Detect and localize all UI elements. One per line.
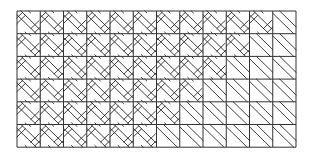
- band-edge: [133, 128, 152, 147]
- woven-cell: [87, 102, 110, 125]
- band-edge: [17, 15, 36, 34]
- band-edge: [21, 11, 40, 30]
- weave-stroke: [198, 50, 203, 55]
- woven-cell: [87, 11, 110, 34]
- weave-stroke: [174, 50, 179, 55]
- band-edge: [64, 106, 83, 125]
- weave-stroke: [151, 141, 156, 146]
- hatch-line: [203, 127, 224, 147]
- band-edge: [207, 34, 226, 53]
- weave-stroke: [221, 73, 226, 78]
- woven-cell: [133, 125, 156, 148]
- weave-stroke: [244, 50, 249, 55]
- weave-stroke: [81, 118, 86, 123]
- band-edge: [17, 60, 36, 79]
- weave-stroke: [151, 50, 156, 55]
- weave-stroke: [151, 73, 156, 78]
- hatch-line: [256, 79, 272, 95]
- band-edge: [137, 102, 156, 121]
- band-edge: [137, 79, 156, 98]
- hatch-line: [273, 36, 294, 56]
- band-edge: [157, 15, 176, 34]
- band-edge: [91, 34, 110, 53]
- band-edge: [160, 102, 179, 121]
- woven-cell: [203, 11, 226, 34]
- band-edge: [67, 56, 86, 75]
- band-edge: [44, 34, 63, 53]
- band-edge: [17, 83, 36, 102]
- band-edge: [91, 79, 110, 98]
- woven-cell: [64, 34, 87, 57]
- weave-stroke: [81, 27, 86, 32]
- woven-cell: [110, 102, 133, 125]
- band-edge: [40, 60, 59, 79]
- hatch-line: [273, 104, 294, 124]
- hatch-line: [273, 13, 294, 33]
- diagonal-cell: [273, 56, 296, 79]
- band-edge: [253, 11, 272, 30]
- weave-stroke: [105, 141, 110, 146]
- band-edge: [203, 38, 222, 57]
- band-edge: [133, 83, 152, 102]
- weave-stroke: [151, 27, 156, 32]
- woven-cell: [40, 125, 63, 148]
- band-edge: [160, 11, 179, 30]
- band-edge: [64, 128, 83, 147]
- band-edge: [207, 56, 226, 75]
- band-edge: [184, 56, 203, 75]
- woven-cell: [64, 79, 87, 102]
- band-edge: [137, 125, 156, 144]
- diagonal-cell: [273, 34, 296, 57]
- woven-cell: [180, 56, 203, 79]
- band-edge: [91, 102, 110, 121]
- hatch-line: [233, 56, 249, 72]
- woven-cell: [110, 125, 133, 148]
- hatch-line: [250, 59, 271, 79]
- diagonal-cell: [180, 125, 203, 148]
- weave-stroke: [58, 141, 63, 146]
- weave-stroke: [128, 73, 133, 78]
- weave-stroke: [174, 95, 179, 100]
- band-edge: [230, 34, 249, 53]
- band-edge: [180, 38, 199, 57]
- weave-stroke: [105, 118, 110, 123]
- woven-cell: [157, 11, 180, 34]
- band-edge: [160, 34, 179, 53]
- woven-cell: [17, 34, 40, 57]
- hatch-line: [256, 56, 272, 72]
- hatch-line: [226, 81, 247, 101]
- band-edge: [44, 56, 63, 75]
- weave-stroke: [35, 73, 40, 78]
- hatch-line: [273, 81, 294, 101]
- band-edge: [133, 15, 152, 34]
- woven-cell: [226, 34, 249, 57]
- hatch-line: [187, 125, 203, 141]
- band-edge: [133, 38, 152, 57]
- band-edge: [67, 79, 86, 98]
- weave-stroke: [105, 27, 110, 32]
- hatch-line: [203, 81, 224, 101]
- weave-stroke: [35, 118, 40, 123]
- hatch-line: [256, 125, 272, 141]
- band-edge: [114, 79, 133, 98]
- band-edge: [40, 106, 59, 125]
- band-edge: [87, 60, 106, 79]
- woven-cell: [157, 34, 180, 57]
- woven-cell: [133, 34, 156, 57]
- woven-cell: [157, 102, 180, 125]
- woven-cell: [110, 79, 133, 102]
- weave-stroke: [35, 27, 40, 32]
- weave-stroke: [174, 73, 179, 78]
- band-edge: [67, 102, 86, 121]
- woven-cell: [87, 79, 110, 102]
- band-edge: [21, 79, 40, 98]
- weave-stroke: [35, 141, 40, 146]
- woven-cell: [87, 34, 110, 57]
- weave-stroke: [244, 27, 249, 32]
- weave-stroke: [128, 27, 133, 32]
- band-edge: [64, 38, 83, 57]
- band-edge: [110, 38, 129, 57]
- weave-stroke: [267, 27, 272, 32]
- weave-stroke: [105, 95, 110, 100]
- hatch-line: [163, 125, 179, 141]
